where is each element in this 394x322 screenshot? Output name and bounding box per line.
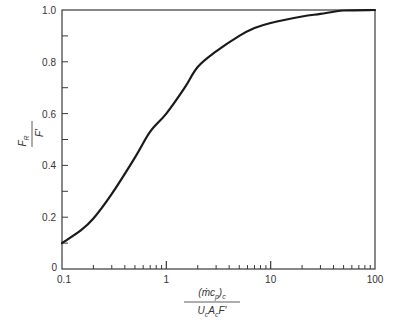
y-tick-label: 0.4: [42, 160, 56, 171]
svg-text:(ṁcp)c: (ṁcp)c: [198, 287, 226, 301]
y-tick-label: 0: [51, 262, 57, 273]
svg-text:UcAcF': UcAcF': [198, 305, 228, 318]
x-tick-label: 100: [367, 274, 384, 285]
y-tick-label: 0.2: [42, 212, 56, 223]
chart: 00.20.40.60.81.0 0.1110100 FR F' (ṁcp)c …: [0, 0, 394, 322]
svg-text:FR: FR: [17, 135, 30, 146]
x-axis-ticks: [93, 261, 370, 269]
x-tick-label: 0.1: [57, 274, 71, 285]
x-tick-label: 1: [164, 274, 170, 285]
svg-text:F': F': [34, 128, 45, 137]
x-axis-label: (ṁcp)c UcAcF': [184, 287, 240, 318]
y-tick-label: 1.0: [42, 5, 56, 16]
x-axis-tick-labels: 0.1110100: [57, 274, 384, 285]
y-tick-label: 0.6: [42, 109, 56, 120]
y-axis-label: FR F': [17, 121, 45, 147]
y-tick-label: 0.8: [42, 57, 56, 68]
y-axis-tick-labels: 00.20.40.60.81.0: [42, 5, 57, 273]
x-tick-label: 10: [265, 274, 277, 285]
y-axis-ticks: [62, 36, 68, 243]
data-curve: [62, 10, 375, 243]
